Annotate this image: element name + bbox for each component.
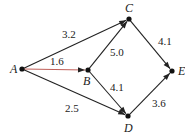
edge-weight-d-e: 3.6 [152, 97, 166, 109]
edge-weight-a-b: 1.6 [50, 55, 64, 67]
node-label-c: C [125, 1, 134, 15]
node-label-d: D [123, 121, 133, 135]
graph-diagram: 3.21.62.55.04.14.13.6ABCDE [0, 0, 185, 135]
node-c [126, 16, 131, 21]
edge-weight-b-d: 4.1 [110, 81, 124, 93]
node-e [169, 68, 174, 73]
edge-a-b [24, 69, 85, 70]
node-b [85, 67, 90, 72]
node-a [19, 66, 24, 71]
graph-canvas: 3.21.62.55.04.14.13.6ABCDE [0, 0, 185, 135]
node-label-b: B [83, 74, 91, 88]
node-d [125, 113, 130, 118]
edge-weight-a-d: 2.5 [65, 102, 79, 114]
edge-weight-c-e: 4.1 [158, 35, 172, 47]
edge-weight-b-c: 5.0 [110, 46, 124, 58]
node-label-a: A [9, 62, 18, 76]
node-label-e: E [177, 64, 185, 78]
edge-weight-a-c: 3.2 [62, 28, 76, 40]
arrowhead-icon [78, 67, 85, 72]
